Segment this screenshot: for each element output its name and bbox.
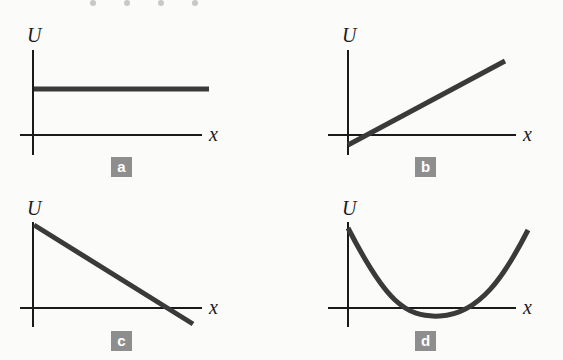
curve-parabola <box>348 228 528 316</box>
x-axis-label: x <box>522 123 532 145</box>
curve-increasing <box>348 61 505 145</box>
badge-label: c <box>117 332 125 349</box>
badge-label: b <box>421 158 430 175</box>
panel-c: U x c <box>20 197 218 351</box>
y-axis-label: U <box>342 197 358 219</box>
x-axis-label: x <box>208 296 218 318</box>
badge-label: a <box>117 158 126 175</box>
x-axis-label: x <box>522 296 532 318</box>
curve-decreasing <box>34 225 193 324</box>
panel-a: U x a <box>20 24 218 177</box>
y-axis-label: U <box>27 197 43 219</box>
y-axis-label: U <box>342 24 358 46</box>
y-axis-label: U <box>27 24 43 46</box>
panel-b: U x b <box>328 24 532 177</box>
potential-energy-graphs: U x a U x b U x c U x d <box>0 0 563 360</box>
x-axis-label: x <box>208 123 218 145</box>
panel-d: U x d <box>328 197 532 351</box>
badge-label: d <box>421 332 430 349</box>
